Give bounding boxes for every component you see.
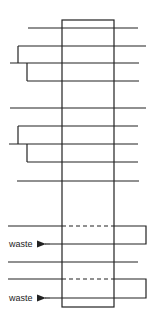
flow-diagram: waste waste: [0, 0, 158, 325]
waste-stream-1-return: [50, 226, 146, 244]
waste-label-2: waste: [8, 293, 33, 303]
waste-stream-2-return: [50, 279, 146, 298]
waste-label-1: waste: [8, 239, 33, 249]
